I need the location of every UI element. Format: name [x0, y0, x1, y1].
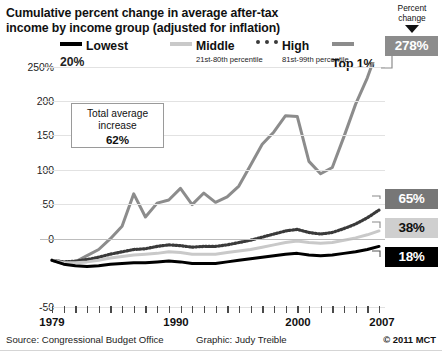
- x-tick-2001: [309, 306, 310, 313]
- cutoff-text-top: [295, 0, 405, 3]
- x-tick-2002: [321, 306, 322, 313]
- gridline-100: [40, 170, 385, 171]
- x-tick-2000: [297, 306, 298, 313]
- x-tick-1988: [157, 306, 158, 313]
- end-label-middle: 38%: [385, 218, 438, 238]
- total-average-callout: Total average increase 62%: [71, 103, 164, 148]
- x-tick-label-1979: 1979: [39, 316, 64, 328]
- x-tick-1990: [181, 306, 182, 313]
- callout-line-2: increase: [98, 120, 137, 131]
- x-tick-1992: [204, 306, 205, 313]
- x-tick-1994: [227, 306, 228, 313]
- percent-change-line-2: change: [386, 14, 438, 24]
- callout-line-1: Total average: [87, 108, 148, 119]
- graphic-credit: Graphic: Judy Treible: [196, 334, 287, 345]
- x-tick-1982: [87, 306, 88, 313]
- x-tick-2003: [332, 306, 333, 313]
- x-tick-1989: [169, 306, 170, 313]
- x-tick-2006: [367, 306, 368, 313]
- x-tick-1999: [286, 306, 287, 313]
- footer-divider: [0, 350, 442, 351]
- end-label-high: 65%: [385, 189, 438, 209]
- title-line-1: Cumulative percent change in average aft…: [6, 6, 278, 20]
- legend-swatch-high-icon: [256, 40, 278, 48]
- x-tick-1986: [134, 306, 135, 313]
- legend-swatch-lowest-icon: [60, 42, 82, 46]
- legend-item-middle: Middle 21st-80th percentile: [170, 36, 263, 64]
- plot-area: [40, 62, 385, 304]
- x-tick-label-2000: 2000: [285, 316, 310, 328]
- x-tick-1983: [99, 306, 100, 313]
- legend-label-high: High: [282, 39, 309, 53]
- legend-label-lowest: Lowest: [86, 39, 128, 53]
- gridline-zero: [40, 239, 385, 240]
- x-tick-label-2007: 2007: [369, 316, 394, 328]
- x-tick-2004: [344, 306, 345, 313]
- copyright-text: © 2011 MCT: [383, 334, 436, 345]
- x-tick-1987: [145, 306, 146, 313]
- x-tick-1997: [262, 306, 263, 313]
- x-tick-1981: [75, 306, 76, 313]
- series-lines: [40, 62, 385, 304]
- x-tick-1984: [110, 306, 111, 313]
- end-label-lowest: 18%: [385, 247, 438, 267]
- x-tick-1995: [239, 306, 240, 313]
- x-tick-1993: [216, 306, 217, 313]
- x-tick-1998: [274, 306, 275, 313]
- callout-value: 62%: [72, 134, 163, 146]
- page-title: Cumulative percent change in average aft…: [6, 6, 306, 35]
- x-tick-2005: [356, 306, 357, 313]
- x-tick-1985: [122, 306, 123, 313]
- x-tick-1979: [52, 306, 53, 313]
- percent-change-caption: Percent change: [386, 4, 438, 23]
- down-arrow-icon: [405, 25, 419, 33]
- x-axis-ticks: [40, 304, 385, 314]
- gridline-50: [40, 204, 385, 205]
- end-label-top1: 278%: [385, 36, 438, 56]
- x-tick-1996: [251, 306, 252, 313]
- x-tick-1980: [64, 306, 65, 313]
- x-tick-label-1990: 1990: [163, 316, 188, 328]
- gridline-250: [40, 67, 385, 68]
- x-tick-2007: [379, 306, 380, 313]
- gridline-200: [40, 101, 385, 102]
- source-text: Source: Congressional Budget Office: [6, 334, 164, 345]
- legend-swatch-middle-icon: [170, 42, 192, 46]
- infographic-chart: Cumulative percent change in average aft…: [0, 0, 442, 357]
- legend-label-middle: Middle: [196, 39, 235, 53]
- x-tick-1991: [192, 306, 193, 313]
- title-line-2: income by income group (adjusted for inf…: [6, 21, 306, 36]
- legend-swatch-top1-icon: [332, 42, 354, 46]
